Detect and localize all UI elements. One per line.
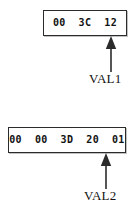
byte-box-val2: 00 00 3D 20 01	[8, 127, 126, 153]
label-val1: VAL1	[89, 72, 121, 85]
arrow-up-icon-val2	[95, 153, 117, 189]
byte-values-val1: 00 3C 12	[53, 18, 117, 28]
arrow-head-val2	[101, 153, 111, 166]
byte-sequence-diagram: 00 3C 12 VAL1 00 00 3D 20 01 VAL2	[0, 0, 137, 212]
label-val2: VAL2	[84, 189, 116, 202]
byte-box-val1: 00 3C 12	[43, 10, 127, 36]
arrow-up-icon-val1	[100, 36, 122, 72]
byte-values-val2: 00 00 3D 20 01	[9, 135, 125, 145]
arrow-head-val1	[106, 36, 116, 49]
